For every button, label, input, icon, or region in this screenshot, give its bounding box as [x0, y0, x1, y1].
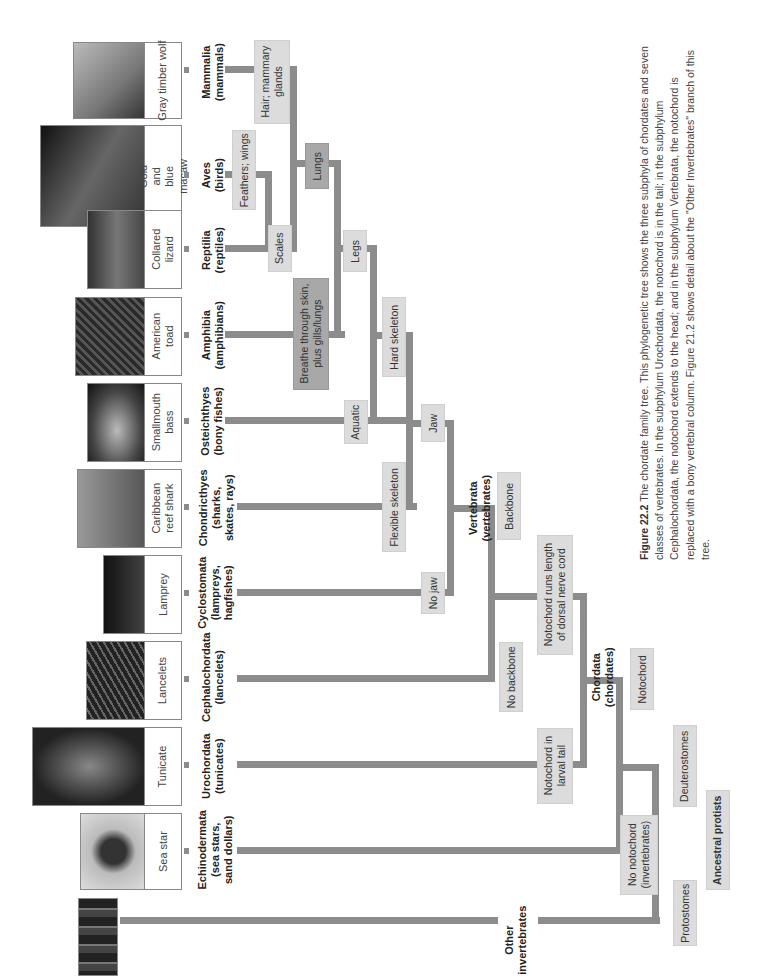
trait-breathe: Breathe through skin,plus gills/lungs: [293, 278, 329, 390]
trait-hard-skeleton: Hard skeleton: [382, 297, 406, 377]
photo-collared-lizard: [87, 210, 147, 289]
photo-label-lamprey: Lamprey: [144, 555, 182, 634]
branch-aquatic: [370, 417, 380, 424]
photo-invertebrates-strip: [78, 898, 118, 976]
photo-label-tunicate: Tunicate: [144, 727, 182, 806]
trait-backbone: Backbone: [497, 472, 521, 540]
trait-protostomes: Protostomes: [673, 880, 697, 946]
tick-bass: [184, 418, 189, 424]
trait-notochord: Notochord: [630, 648, 654, 710]
photo-sea-star: [80, 813, 147, 890]
trait-no-backbone: No backbone: [499, 642, 523, 712]
photo-american-toad: [75, 297, 147, 376]
trait-ancestral-protists: Ancestral protists: [706, 790, 730, 890]
tick-lancelets: [184, 676, 189, 682]
trait-lungs: Lungs: [305, 143, 329, 189]
taxon-cephalochordata: Cephalochordata(lancelets): [192, 630, 234, 725]
photo-label-toad: American toad: [144, 297, 182, 376]
branch-urochordata: [237, 761, 587, 768]
photo-label-shark: Caribbean reef shark: [144, 469, 182, 548]
clade-vertebrata: Vertebrata(vertebrates): [462, 468, 498, 548]
branch-other-invertebrates-b: [538, 917, 660, 924]
photo-lamprey: [103, 555, 147, 634]
trait-no-jaw: No jaw: [421, 572, 445, 614]
trait-aquatic: Aquatic: [344, 400, 368, 444]
tick-macaw: [184, 172, 189, 178]
branch-mammalia: [225, 66, 257, 73]
tick-toad: [184, 332, 189, 338]
photo-lancelets: [86, 641, 147, 720]
trait-feathers-wings: Feathers; wings: [232, 130, 256, 210]
branch-cyclostomata: [237, 589, 449, 596]
branch-deuterostomes: [616, 764, 656, 771]
taxon-echinodermata: Echinodermata(sea stars,sand dollars): [188, 805, 244, 895]
tick-wolf: [184, 67, 189, 73]
trait-scales: Scales: [268, 225, 292, 272]
caption-figure-label: Figure 22.2: [638, 505, 650, 560]
photo-label-sea-star: Sea star: [144, 813, 182, 890]
taxon-cyclostomata: Cyclostomata(lampreys,hagfishes): [188, 550, 244, 635]
branch-other-invertebrates-a: [120, 917, 498, 924]
photo-label-lizard: Collared lizard: [144, 210, 182, 289]
figure-caption: Figure 22.2 The chordate family tree. Th…: [590, 40, 760, 560]
photo-label-lancelets: Lancelets: [144, 641, 182, 720]
trait-flexible-skeleton: Flexible skeleton: [382, 462, 406, 552]
branch-cephalochordata: [237, 675, 495, 682]
trait-no-notochord: No notochord(invertebrates): [620, 815, 658, 895]
branch-reptilia: [225, 245, 265, 252]
branch-echinodermata: [237, 847, 625, 854]
photo-tunicate: [32, 727, 147, 806]
photo-smallmouth-bass: [87, 383, 147, 462]
trait-notochord-tail: Notochord inlarval tail: [537, 728, 573, 804]
taxon-chondricthyes: Chondricthyes(sharks,skates, rays): [188, 465, 244, 550]
trait-legs: Legs: [343, 230, 367, 272]
taxon-urochordata: Urochordata(tunicates): [192, 725, 234, 807]
photo-gray-timber-wolf: [73, 42, 147, 119]
photo-reef-shark: [77, 469, 147, 548]
trait-deuterostomes: Deuterostomes: [673, 725, 697, 807]
tick-tunicate: [184, 762, 189, 768]
taxon-other-invertebrates: Otherinvertebrates: [496, 900, 538, 980]
trait-hair-mammary: Hair; mammaryglands: [254, 40, 290, 124]
tick-lizard: [184, 246, 189, 252]
photo-label-wolf: Gray timber wolf: [144, 42, 182, 119]
photo-label-bass: Smallmouth bass: [144, 383, 182, 462]
trait-jaw: Jaw: [421, 404, 445, 442]
caption-title: The chordate family tree.: [638, 386, 650, 502]
clade-chordata: Chordata(chordates): [585, 640, 621, 715]
trait-notochord-length: Notochord runs lengthof dorsal nerve cor…: [537, 535, 573, 655]
